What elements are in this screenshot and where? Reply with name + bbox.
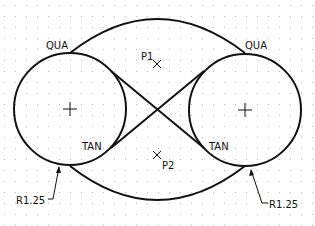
bottom-arc[interactable] — [70, 166, 245, 200]
tan-left-label: TAN — [81, 141, 102, 152]
radius-right-label: R1.25 — [269, 199, 298, 210]
qua-right-label: QUA — [245, 40, 267, 51]
radius-left-label: R1.25 — [16, 195, 45, 206]
right-radius-leader — [249, 169, 268, 203]
left-radius-leader — [48, 166, 61, 199]
p1-cross-icon[interactable] — [153, 60, 161, 68]
left-center-mark-icon — [63, 102, 77, 116]
cad-drawing-canvas[interactable]: QUA QUA TAN TAN P1 P2 R1.25 R1.25 — [0, 0, 315, 226]
grid-dots — [4, 5, 313, 226]
tan-right-label: TAN — [208, 141, 229, 152]
top-arc[interactable] — [70, 19, 245, 53]
right-center-mark-icon — [238, 103, 252, 117]
qua-left-label: QUA — [46, 40, 68, 51]
p2-cross-icon[interactable] — [153, 151, 161, 159]
p1-label: P1 — [141, 51, 153, 62]
p2-label: P2 — [162, 160, 174, 171]
